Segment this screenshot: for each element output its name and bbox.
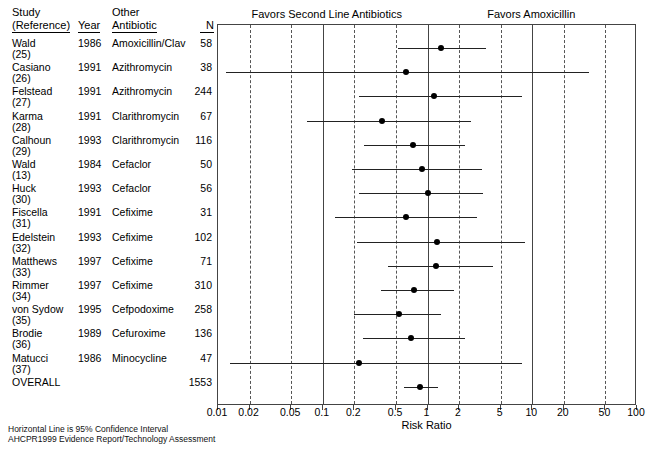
- point-estimate-marker: [417, 384, 423, 390]
- study-year: 1997: [78, 256, 101, 267]
- point-estimate-marker: [438, 45, 444, 51]
- point-estimate-marker: [396, 311, 402, 317]
- point-estimate-marker: [411, 287, 417, 293]
- study-name: Edelstein: [12, 232, 55, 243]
- study-reference: (27): [12, 97, 31, 108]
- study-year: 1993: [78, 232, 101, 243]
- study-year: 1995: [78, 304, 101, 315]
- study-year: 1991: [78, 86, 101, 97]
- study-reference: (35): [12, 315, 31, 326]
- point-estimate-marker: [403, 69, 409, 75]
- study-year: 1989: [78, 328, 101, 339]
- point-estimate-marker: [434, 239, 440, 245]
- header-study-line1: Study: [12, 6, 40, 18]
- study-n: 38: [180, 62, 212, 73]
- study-name: Matucci: [12, 353, 48, 364]
- study-antibiotic: Clarithromycin: [112, 111, 179, 122]
- gridline-2: [459, 25, 460, 404]
- study-n: 31: [180, 207, 212, 218]
- study-year: 1986: [78, 353, 101, 364]
- study-n: 244: [180, 86, 212, 97]
- study-antibiotic: Cefixime: [112, 232, 153, 243]
- study-n: 50: [180, 159, 212, 170]
- study-n: 71: [180, 256, 212, 267]
- confidence-interval-line: [352, 169, 482, 170]
- study-antibiotic: Minocycline: [112, 353, 167, 364]
- study-antibiotic: Cefaclor: [112, 159, 151, 170]
- gridline-0.1: [323, 25, 324, 404]
- point-estimate-marker: [431, 93, 437, 99]
- gridline-0.2: [354, 25, 355, 404]
- point-estimate-marker: [433, 263, 439, 269]
- gridline-1: [428, 25, 429, 404]
- study-n: 56: [180, 183, 212, 194]
- point-estimate-marker: [419, 166, 425, 172]
- study-n: 67: [180, 111, 212, 122]
- confidence-interval-line: [357, 242, 525, 243]
- tick-label-100: 100: [616, 406, 655, 418]
- study-year: 1991: [78, 207, 101, 218]
- study-reference: (32): [12, 243, 31, 254]
- study-reference: (33): [12, 267, 31, 278]
- confidence-interval-line: [307, 121, 471, 122]
- study-name: OVERALL: [12, 377, 60, 388]
- point-estimate-marker: [425, 190, 431, 196]
- gridline-50: [605, 25, 606, 404]
- study-antibiotic: Cefuroxime: [112, 328, 166, 339]
- study-reference: (25): [12, 49, 31, 60]
- study-antibiotic: Cefixime: [112, 280, 153, 291]
- point-estimate-marker: [379, 118, 385, 124]
- point-estimate-marker: [403, 214, 409, 220]
- confidence-interval-line: [388, 266, 493, 267]
- gridline-0.05: [291, 25, 292, 404]
- plot-area: [217, 24, 636, 405]
- confidence-interval-line: [359, 96, 522, 97]
- header-year: Year: [78, 19, 100, 33]
- tick-label-0.2: 0.2: [333, 406, 373, 418]
- study-n: 310: [180, 280, 212, 291]
- footnote-1: Horizontal Line is 95% Confidence Interv…: [8, 424, 168, 434]
- gridline-20: [564, 25, 565, 404]
- study-n: 258: [180, 304, 212, 315]
- favors-right-label: Favors Amoxicillin: [427, 8, 637, 20]
- header-antibiotic-line2: Antibiotic: [112, 19, 157, 33]
- study-n: 1553: [180, 377, 212, 388]
- study-year: 1997: [78, 280, 101, 291]
- gridline-0.5: [396, 25, 397, 404]
- confidence-interval-line: [230, 363, 522, 364]
- gridline-5: [501, 25, 502, 404]
- study-reference: (30): [12, 194, 31, 205]
- study-reference: (34): [12, 291, 31, 302]
- point-estimate-marker: [408, 335, 414, 341]
- study-antibiotic: Azithromycin: [112, 62, 172, 73]
- study-antibiotic: Cefixime: [112, 256, 153, 267]
- study-reference: (31): [12, 218, 31, 229]
- tick-label-20: 20: [543, 406, 583, 418]
- study-reference: (29): [12, 146, 31, 157]
- confidence-interval-line: [363, 338, 466, 339]
- axis-title: Risk Ratio: [217, 419, 636, 431]
- study-year: 1984: [78, 159, 101, 170]
- study-antibiotic: Cefaclor: [112, 183, 151, 194]
- study-reference: (37): [12, 364, 31, 375]
- gridline-0.02: [250, 25, 251, 404]
- study-year: 1986: [78, 38, 101, 49]
- study-year: 1993: [78, 183, 101, 194]
- study-antibiotic: Clarithromycin: [112, 135, 179, 146]
- study-antibiotic: Cefixime: [112, 207, 153, 218]
- study-reference: (36): [12, 339, 31, 350]
- study-n: 47: [180, 353, 212, 364]
- study-antibiotic: Amoxicillin/Clav: [112, 38, 186, 49]
- study-n: 136: [180, 328, 212, 339]
- favors-left-label: Favors Second Line Antibiotics: [227, 8, 427, 20]
- gridline-10: [532, 25, 533, 404]
- study-reference: (28): [12, 122, 31, 133]
- confidence-interval-line: [359, 193, 484, 194]
- footnote-2: AHCPR1999 Evidence Report/Technology Ass…: [8, 434, 215, 444]
- point-estimate-marker: [410, 142, 416, 148]
- study-n: 102: [180, 232, 212, 243]
- study-n: 116: [180, 135, 212, 146]
- study-reference: (13): [12, 170, 31, 181]
- study-name: Karma: [12, 111, 43, 122]
- study-year: 1991: [78, 62, 101, 73]
